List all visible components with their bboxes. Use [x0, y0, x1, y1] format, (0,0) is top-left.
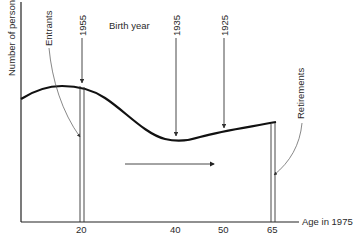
x-tick-20: 20 — [76, 224, 87, 235]
birth-year-axis-label: Birth year — [109, 20, 150, 31]
birth-year-1955-label: 1955 — [77, 15, 88, 36]
birth-year-1925-label: 1925 — [219, 15, 230, 36]
y-axis-label: Number of persons — [6, 0, 17, 76]
retirements-label: Retirements — [295, 68, 306, 119]
x-tick-40: 40 — [170, 224, 181, 235]
population-curve — [21, 86, 276, 141]
x-tick-50: 50 — [218, 224, 229, 235]
age-distribution-chart: Number of persons Age in 1975 1955 Birth… — [0, 0, 361, 243]
entrants-pointer-arrow — [49, 48, 80, 137]
x-axis-label: Age in 1975 — [302, 216, 353, 227]
entrants-label: Entrants — [43, 10, 54, 46]
birth-year-1935-label: 1935 — [171, 15, 182, 36]
retirements-pointer-arrow — [274, 123, 302, 175]
x-tick-65: 65 — [267, 224, 278, 235]
